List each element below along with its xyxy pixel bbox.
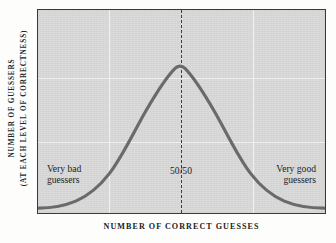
y-axis-label-line2: (AT EACH LEVEL OF CORRECTNESS): [18, 29, 30, 186]
x-axis-label: NUMBER OF CORRECT GUESSES: [37, 222, 326, 231]
y-axis-label: NUMBER OF GUESSERS (AT EACH LEVEL OF COR…: [0, 0, 36, 215]
annotation-very-good-guessers: Very good guessers: [276, 164, 316, 185]
annotation-very-bad-line2: guessers: [47, 175, 81, 186]
annotation-very-good-line2: guessers: [276, 175, 316, 186]
y-axis-label-text: NUMBER OF GUESSERS (AT EACH LEVEL OF COR…: [6, 29, 30, 186]
annotation-very-bad-guessers: Very bad guessers: [47, 164, 81, 185]
annotation-very-bad-line1: Very bad: [47, 164, 81, 175]
annotation-fifty-fifty: 50/50: [170, 166, 192, 177]
plot-inner: Very bad guessers 50/50 Very good guesse…: [38, 10, 325, 213]
annotation-very-good-line1: Very good: [276, 164, 316, 175]
plot-area: Very bad guessers 50/50 Very good guesse…: [37, 9, 326, 214]
figure-root: NUMBER OF GUESSERS (AT EACH LEVEL OF COR…: [0, 0, 336, 243]
y-axis-label-line1: NUMBER OF GUESSERS: [6, 29, 18, 186]
